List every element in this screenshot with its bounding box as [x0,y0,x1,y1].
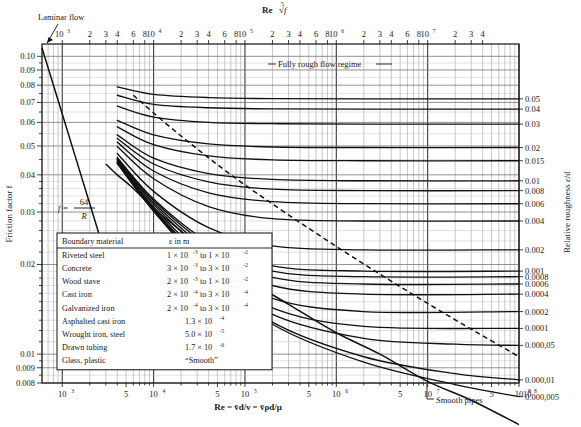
bottom-axis-title: Re = v̄d/ν = v̄ρd/μ [214,402,282,412]
right-tick-label: 0.0004 [525,289,549,299]
bottom-tick-exponent: 6 [345,388,348,394]
legend-material: Cast iron [62,290,92,299]
top-tick-label: 10 [55,29,64,39]
curve-eps/d=0.015 [117,127,519,161]
bottom-tick-label: 10 [515,389,524,399]
legend-value-text: to 1 × 10 [200,251,229,260]
top-tick-label: 4 [298,29,303,39]
legend-value-text: to 3 × 10 [200,304,229,313]
bottom-tick-exponent: 7 [437,388,440,394]
legend-exponent: -3 [193,276,198,282]
curve-eps/d=0.05 [117,87,519,99]
top-axis-radical: √f [279,5,288,15]
fully-rough-label: Fully rough flow regime [278,59,362,69]
legend-material: Concrete [62,264,92,273]
legend-value-text: to 3 × 10 [200,264,229,273]
bottom-tick-label: 10 [58,389,67,399]
legend-value-text: 1.3 × 10 [185,317,212,326]
top-tick-exponent: 7 [433,28,436,34]
right-tick-label: 0.0006 [525,279,548,289]
bottom-tick-label: 10 [241,389,250,399]
bottom-tick-label: 5 [398,389,402,399]
legend-exponent: -4 [193,302,198,308]
legend-exponent: -4 [243,289,248,295]
top-tick-label: 4 [389,29,394,39]
top-tick-label: 6 [223,29,227,39]
top-tick-label: 3 [195,29,199,39]
left-tick-label: 0.05 [20,141,35,151]
right-corner-decade-label: 10 [523,389,532,399]
right-tick-label: 0.0002 [525,307,548,317]
right-tick-label: 0.03 [525,119,540,129]
top-axis-title-text: Re [262,5,273,15]
legend-value-text: to 1 × 10 [200,277,229,286]
legend-header-epsilon: ε in m [169,237,190,246]
right-tick-label: 0.000,01 [525,375,555,385]
bottom-tick-label: 10 [149,389,158,399]
legend-material: Drawn tubing [62,343,107,352]
legend-value-text: 5.0 × 10 [185,330,212,339]
moody-diagram-figure: 1035104510551065107510810323468104234681… [0,0,581,427]
top-tick-label: 2 [270,29,274,39]
legend-value-text: 1.7 × 10 [185,343,212,352]
bottom-tick-label: 5 [124,389,128,399]
right-tick-label: 0.008 [525,186,544,196]
legend-value-text: to 3 × 10 [200,290,229,299]
top-tick-exponent: 5 [250,28,253,34]
legend-exponent: -4 [193,289,198,295]
left-tick-label: 0.009 [16,363,35,373]
left-tick-label: 0.07 [20,97,35,107]
legend-exponent: -3 [193,249,198,255]
top-tick-label: 2 [179,29,183,39]
legend-value-text: 2 × 10 [167,290,188,299]
laminar-equation-numerator: 64 [80,197,89,207]
right-tick-label: 0.0001 [525,323,548,333]
left-tick-label: 0.06 [20,117,35,127]
legend-material: Riveted steel [62,251,105,260]
bottom-tick-label: 10 [423,389,432,399]
right-axis-title: Relative roughness ε/d [562,171,572,253]
left-tick-label: 0.01 [20,349,35,359]
bottom-tick-label: 5 [489,389,493,399]
top-tick-label: 2 [362,29,366,39]
legend-exponent: -6 [220,342,225,348]
legend-value-text: 3 × 10 [167,264,188,273]
moody-chart-svg: 1035104510551065107510810323468104234681… [0,0,581,427]
legend-material: Wood stave [62,277,101,286]
bottom-tick-label: 5 [215,389,219,399]
top-tick-label: 2 [453,29,457,39]
top-tick-label: 10 [146,29,155,39]
legend-header-material: Boundary material [62,237,124,246]
right-tick-label: 0.04 [525,104,541,114]
bottom-tick-exponent: 5 [254,388,257,394]
left-tick-label: 0.09 [20,65,35,75]
legend-exponent: -3 [193,262,198,268]
laminar-flow-label: Laminar flow [38,12,85,22]
legend-material: Asphalted cast iron [62,317,125,326]
smooth-pipes-label: Smooth pipes [436,395,483,405]
right-tick-label: 0.05 [525,94,540,104]
top-tick-label: 4 [481,29,486,39]
bottom-tick-label: 10 [332,389,341,399]
top-tick-exponent: 4 [159,28,162,34]
top-tick-label: 6 [131,29,135,39]
bottom-tick-exponent: 4 [163,388,166,394]
right-tick-label: 0.01 [525,176,540,186]
top-tick-label: 4 [115,29,120,39]
right-tick-label: 0.006 [525,199,544,209]
left-tick-label: 0.008 [16,378,35,388]
top-tick-label: 6 [405,29,409,39]
right-tick-label: 0.002 [525,245,544,255]
top-tick-exponent: 3 [67,28,70,34]
left-tick-label: 0.04 [20,170,36,180]
legend-exponent: -5 [220,328,225,334]
legend-exponent: -2 [243,262,248,268]
left-tick-label: 0.02 [20,259,35,269]
top-tick-label: 3 [104,29,108,39]
legend-value-text: 2 × 10 [167,304,188,313]
legend-value-text: “Smooth” [185,356,218,365]
left-tick-label: 0.10 [20,51,35,61]
top-axis-title: Re 5 √f [262,1,288,15]
legend-value-text: 2 × 10 [167,277,188,286]
right-tick-label: 0.004 [525,216,545,226]
